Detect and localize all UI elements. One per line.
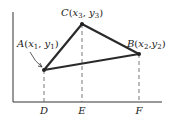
point-C [80,22,84,26]
label-C: C(x3, y3) [61,7,103,20]
axis-label-E: E [77,105,86,116]
axis-label-D: D [39,105,48,116]
triangle-diagram: A(x1, y1) C(x3, y3) B(x2,y2) D E F [0,0,174,119]
label-A: A(x1, y1) [16,38,59,51]
point-B [137,52,141,56]
axis-label-F: F [135,105,144,116]
arrow-icon [30,52,42,67]
point-A [42,68,46,72]
